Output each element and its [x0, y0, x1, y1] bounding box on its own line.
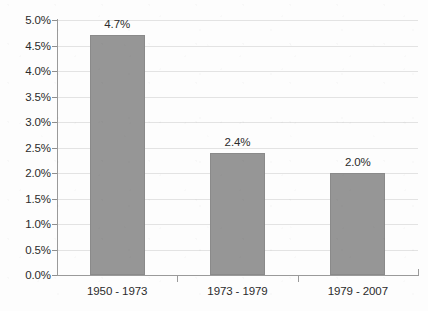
y-axis-tick-label: 4.5%	[5, 40, 51, 52]
bar-value-label: 2.0%	[318, 156, 398, 168]
bar-chart-screenshot: 0.0%0.5%1.0%1.5%2.0%2.5%3.0%3.5%4.0%4.5%…	[0, 0, 428, 311]
y-axis-tick-mark	[52, 199, 57, 200]
y-axis-tick-mark	[52, 97, 57, 98]
y-axis-tick-labels: 0.0%0.5%1.0%1.5%2.0%2.5%3.0%3.5%4.0%4.5%…	[0, 0, 51, 311]
y-axis-tick-mark	[52, 250, 57, 251]
y-axis-tick-mark	[52, 148, 57, 149]
x-axis-category-label: 1979 - 2007	[298, 285, 418, 297]
y-axis-tick-label: 1.0%	[5, 218, 51, 230]
y-axis-tick-label: 5.0%	[5, 14, 51, 26]
x-axis-tick-mark	[298, 276, 299, 282]
y-axis-tick-label: 0.0%	[5, 269, 51, 281]
y-axis-tick-mark	[52, 71, 57, 72]
y-axis-tick-label: 3.0%	[5, 116, 51, 128]
x-axis-end-cap	[418, 269, 419, 276]
y-axis-tick-label: 2.5%	[5, 142, 51, 154]
bar-value-label: 4.7%	[77, 18, 157, 30]
y-axis-tick-mark	[52, 46, 57, 47]
y-axis-tick-label: 2.0%	[5, 167, 51, 179]
x-axis-tick-mark	[177, 276, 178, 282]
bar	[210, 153, 265, 275]
y-axis-tick-mark	[52, 275, 57, 276]
y-axis-tick-mark	[52, 122, 57, 123]
y-axis-tick-mark	[52, 20, 57, 21]
y-axis-tick-label: 4.0%	[5, 65, 51, 77]
bar-value-label: 2.4%	[198, 136, 278, 148]
bar	[330, 173, 385, 275]
x-axis-category-label: 1973 - 1979	[178, 285, 298, 297]
y-axis-tick-label: 0.5%	[5, 244, 51, 256]
y-axis-tick-mark	[52, 173, 57, 174]
y-axis-tick-label: 3.5%	[5, 91, 51, 103]
y-axis-line	[57, 19, 58, 276]
x-axis-category-label: 1950 - 1973	[57, 285, 177, 297]
x-axis-line	[57, 275, 419, 276]
bar	[90, 35, 145, 275]
y-axis-tick-label: 1.5%	[5, 193, 51, 205]
y-axis-tick-mark	[52, 224, 57, 225]
